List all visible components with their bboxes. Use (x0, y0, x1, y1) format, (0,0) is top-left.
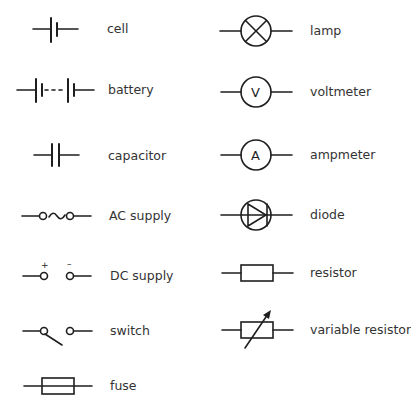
legend-item-ammeter: A ampmeter (205, 135, 411, 175)
label-variable-resistor: variable resistor (310, 323, 411, 337)
svg-text:+: + (41, 260, 49, 270)
label-capacitor: capacitor (108, 149, 166, 163)
voltmeter-icon: V (205, 72, 305, 112)
battery-icon (0, 70, 100, 110)
variable-resistor-icon (205, 310, 305, 350)
label-voltmeter: voltmeter (310, 85, 371, 99)
ac-supply-icon (0, 196, 100, 236)
legend-item-voltmeter: V voltmeter (205, 72, 411, 112)
label-fuse: fuse (110, 379, 137, 393)
label-switch: switch (110, 324, 150, 338)
legend-item-dc-supply: + – DC supply (0, 256, 205, 296)
capacitor-icon (0, 135, 90, 175)
ammeter-icon: A (205, 135, 305, 175)
legend-item-diode: diode (205, 195, 411, 235)
legend-item-fuse: fuse (0, 368, 205, 408)
label-lamp: lamp (310, 24, 341, 38)
legend-item-variable-resistor: variable resistor (205, 310, 411, 350)
label-diode: diode (310, 208, 345, 222)
switch-icon (0, 312, 100, 352)
legend-item-cell: cell (0, 10, 205, 50)
fuse-icon (0, 368, 100, 408)
cell-icon (0, 10, 90, 50)
legend-item-battery: battery (0, 70, 205, 110)
svg-text:–: – (67, 259, 72, 269)
legend-item-switch: switch (0, 312, 205, 352)
legend-item-capacitor: capacitor (0, 135, 205, 175)
legend-item-ac-supply: AC supply (0, 196, 205, 236)
label-ac-supply: AC supply (109, 209, 171, 223)
svg-text:A: A (251, 148, 260, 163)
legend-item-resistor: resistor (205, 253, 411, 293)
label-ammeter: ampmeter (310, 148, 375, 162)
label-cell: cell (107, 22, 129, 36)
resistor-icon (205, 253, 305, 293)
diode-icon (205, 195, 305, 235)
label-dc-supply: DC supply (110, 269, 174, 283)
label-resistor: resistor (310, 266, 357, 280)
legend-item-lamp: lamp (205, 12, 411, 52)
lamp-icon (205, 12, 305, 52)
label-battery: battery (108, 83, 154, 97)
svg-text:V: V (251, 85, 260, 100)
dc-supply-icon: + – (0, 256, 100, 296)
